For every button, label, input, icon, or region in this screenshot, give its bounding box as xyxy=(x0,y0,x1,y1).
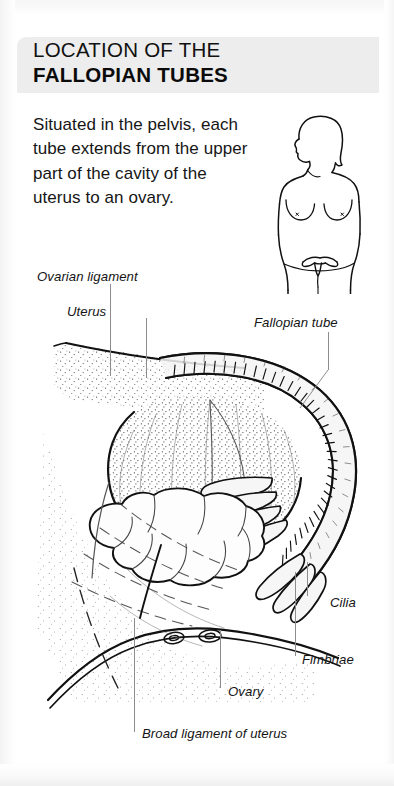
page-edge-left xyxy=(0,0,15,786)
page-title-line2: FALLOPIAN TUBES xyxy=(33,65,353,86)
leader-ovary xyxy=(220,630,221,688)
label-ovary: Ovary xyxy=(228,685,264,698)
page-edge-bottom xyxy=(0,764,394,786)
leader-fallopian-tube-drop xyxy=(328,332,329,370)
page-title-line1: LOCATION OF THE xyxy=(33,40,353,61)
label-uterus: Uterus xyxy=(67,305,106,318)
leader-cilia xyxy=(307,562,308,596)
label-fimbriae: Fimbriae xyxy=(302,653,354,666)
leader-broad-ligament xyxy=(134,618,135,732)
leader-fimbriae xyxy=(295,572,296,656)
page-edge-right xyxy=(384,0,394,786)
female-torso-figure xyxy=(268,108,372,294)
female-torso-icon xyxy=(268,108,372,294)
leader-ovarian-ligament xyxy=(110,284,111,376)
label-cilia: Cilia xyxy=(330,596,356,609)
intro-paragraph: Situated in the pelvis, each tube extend… xyxy=(33,113,257,211)
label-ovarian-ligament: Ovarian ligament xyxy=(37,270,138,283)
label-fallopian-tube: Fallopian tube xyxy=(254,316,338,329)
page-root: LOCATION OF THE FALLOPIAN TUBES Situated… xyxy=(0,0,394,786)
label-broad-ligament-of-uterus: Broad ligament of uterus xyxy=(142,727,287,740)
ovary xyxy=(90,488,265,585)
page-edge-top xyxy=(0,0,394,16)
leader-uterus xyxy=(146,318,147,378)
